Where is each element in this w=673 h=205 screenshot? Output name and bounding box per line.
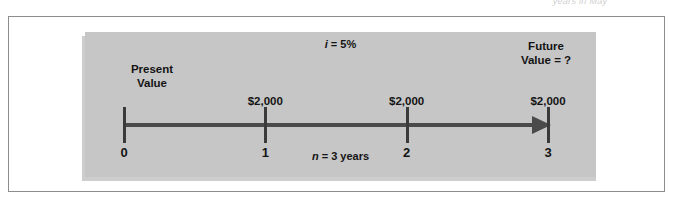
present-value-label: Present Value — [113, 63, 191, 90]
cash-flow-amount: $2,000 — [503, 95, 593, 107]
cash-flow-amount: $2,000 — [220, 95, 310, 107]
future-value-line-1: Future — [500, 40, 592, 54]
diagram-panel: i = 5% Present Value Future Value = ? 01… — [85, 32, 596, 177]
timeline-tick — [264, 107, 267, 143]
periods-value: = 3 years — [319, 150, 369, 162]
present-value-line-2: Value — [113, 77, 191, 91]
timeline-tick — [123, 107, 126, 143]
interest-rate-value: = 5% — [328, 38, 356, 50]
timeline-figure: years in May i = 5% Present Value Future… — [0, 0, 673, 205]
timeline-tick — [406, 107, 409, 143]
periods-label: n = 3 years — [85, 150, 596, 163]
timeline-tick — [547, 107, 550, 143]
timeline-axis — [124, 123, 548, 127]
present-value-line-1: Present — [113, 63, 191, 77]
page-bleed-text: years in May — [535, 0, 625, 8]
periods-symbol: n — [312, 150, 319, 162]
cash-flow-amount: $2,000 — [362, 95, 452, 107]
future-value-line-2: Value = ? — [500, 54, 592, 68]
future-value-label: Future Value = ? — [500, 40, 592, 67]
